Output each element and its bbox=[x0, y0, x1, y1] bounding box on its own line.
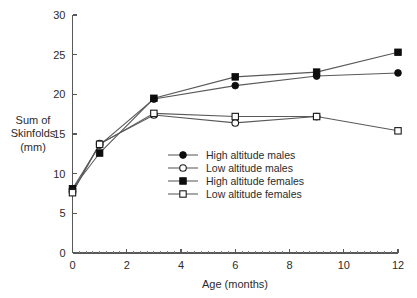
x-tick-label: 12 bbox=[392, 259, 404, 271]
y-tick-label: 5 bbox=[59, 207, 65, 219]
y-tick-label: 10 bbox=[53, 168, 65, 180]
data-point-open-square bbox=[180, 191, 186, 197]
data-point-filled-circle bbox=[395, 70, 402, 77]
y-tick-label: 0 bbox=[59, 247, 65, 259]
data-point-open-circle bbox=[232, 120, 239, 127]
x-tick-label: 0 bbox=[69, 259, 75, 271]
data-point-filled-square bbox=[395, 49, 402, 56]
data-point-open-square bbox=[151, 110, 157, 116]
skinfolds-line-chart: 051015202530 024681012 Sum ofSkinfolds(m… bbox=[0, 0, 417, 298]
data-point-open-square bbox=[96, 141, 102, 147]
y-axis-title-line: (mm) bbox=[20, 141, 46, 153]
data-point-open-square bbox=[232, 113, 238, 119]
data-point-filled-square bbox=[151, 95, 158, 102]
legend-label: High altitude females bbox=[206, 175, 304, 187]
x-tick-label: 10 bbox=[338, 259, 350, 271]
x-tick-label: 4 bbox=[178, 259, 184, 271]
x-tick-label: 6 bbox=[232, 259, 238, 271]
legend-label: Low altitude males bbox=[206, 162, 293, 174]
data-point-open-square bbox=[313, 113, 319, 119]
x-tick-label: 8 bbox=[286, 259, 292, 271]
data-point-filled-square bbox=[313, 69, 320, 76]
x-axis-title: Age (months) bbox=[202, 278, 268, 290]
data-point-open-square bbox=[69, 190, 75, 196]
data-point-filled-circle bbox=[180, 152, 187, 159]
y-axis-title-line: Sum of bbox=[16, 114, 52, 126]
x-tick-label: 2 bbox=[124, 259, 130, 271]
legend-label: High altitude males bbox=[206, 149, 295, 161]
chart-figure: 051015202530 024681012 Sum ofSkinfolds(m… bbox=[0, 0, 417, 298]
y-tick-label: 30 bbox=[53, 9, 65, 21]
y-tick-label: 20 bbox=[53, 88, 65, 100]
data-point-filled-square bbox=[96, 150, 103, 157]
y-axis-title-line: Skinfolds bbox=[11, 127, 56, 139]
y-tick-label: 25 bbox=[53, 49, 65, 61]
data-point-filled-circle bbox=[232, 82, 239, 89]
data-point-open-circle bbox=[180, 165, 187, 172]
data-point-filled-square bbox=[180, 178, 187, 185]
data-point-filled-square bbox=[232, 74, 239, 81]
data-point-open-square bbox=[395, 128, 401, 134]
legend-label: Low altitude females bbox=[206, 188, 302, 200]
